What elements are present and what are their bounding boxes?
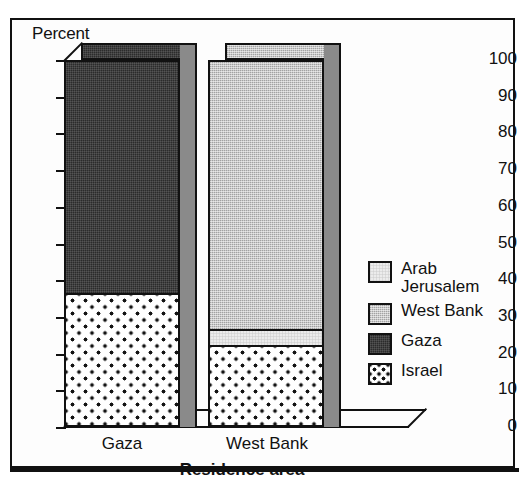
segment-israel	[210, 346, 322, 425]
y-tick-label: 80	[475, 122, 517, 142]
legend-label-arab-jerusalem: Arab Jerusalem	[401, 260, 479, 296]
y-tick-label: 0	[475, 416, 517, 436]
x-category-label-gaza: Gaza	[47, 434, 197, 454]
segment-israel	[66, 294, 178, 425]
bar-west-bank-side-face	[324, 43, 341, 427]
bar-gaza-side-face	[180, 43, 197, 427]
segment-arab-jerusalem	[210, 330, 322, 346]
figure-frame: Percent 100 90 80 70 60 50 40 30 20	[10, 18, 515, 468]
segment-divider	[66, 293, 178, 295]
bar-gaza[interactable]	[64, 60, 180, 427]
y-tick-label: 50	[475, 233, 517, 253]
x-axis-title: Residence area	[12, 460, 472, 480]
legend: Arab Jerusalem West Bank Gaza Israel	[368, 260, 518, 392]
segment-divider	[210, 345, 322, 347]
legend-swatch-gaza-icon	[368, 333, 392, 355]
y-tick	[56, 427, 66, 429]
legend-item-gaza[interactable]: Gaza	[368, 332, 518, 356]
x-category-label-west-bank: West Bank	[192, 434, 342, 454]
legend-label-west-bank: West Bank	[401, 302, 483, 320]
bar-gaza-front	[64, 60, 180, 427]
legend-label-israel: Israel	[401, 362, 443, 380]
y-tick-label: 70	[475, 159, 517, 179]
bar-west-bank-front	[208, 60, 324, 427]
plot-area: Percent 100 90 80 70 60 50 40 30 20	[12, 20, 517, 470]
segment-west-bank	[210, 62, 322, 330]
legend-item-west-bank[interactable]: West Bank	[368, 302, 518, 326]
legend-item-israel[interactable]: Israel	[368, 362, 518, 386]
legend-label-gaza: Gaza	[401, 332, 442, 350]
segment-divider	[210, 329, 322, 331]
legend-swatch-west-bank-icon	[368, 303, 392, 325]
legend-item-arab-jerusalem[interactable]: Arab Jerusalem	[368, 260, 518, 296]
legend-swatch-israel-icon	[368, 363, 392, 385]
y-tick-label: 100	[475, 49, 517, 69]
bar-west-bank[interactable]	[208, 60, 324, 427]
y-tick-label: 60	[475, 196, 517, 216]
segment-gaza	[66, 62, 178, 294]
y-tick-label: 90	[475, 86, 517, 106]
legend-swatch-arab-jerusalem-icon	[368, 261, 392, 283]
